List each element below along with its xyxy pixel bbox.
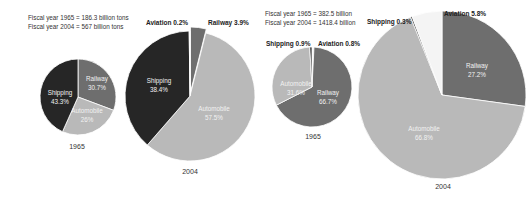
passenger-2004-shipping-label: Shipping 0.3% (367, 18, 411, 25)
passenger-1965-shipping-label: Shipping 0.9% (266, 40, 310, 47)
freight-2004-pie (125, 27, 255, 161)
freight-2004-year: 2004 (182, 168, 198, 175)
passenger-note-1965: Fiscal year 1965 = 382.5 billion (265, 9, 352, 18)
freight-note-1965: Fiscal year 1965 = 186.3 billion tons (28, 13, 129, 22)
passenger-2004-railway-label: Railway 27.2% (466, 61, 488, 79)
freight-1965-year: 1965 (69, 143, 85, 150)
freight-1965-railway-label: Railway 30.7% (86, 74, 108, 92)
passenger-1965-year: 1965 (305, 133, 321, 140)
passenger-1965-railway-label: Railway 66.7% (317, 88, 339, 106)
freight-2004-automobile-label: Automobile 57.5% (198, 104, 230, 122)
passenger-note-2004: Fiscal year 2004 = 1418.4 billion (265, 18, 356, 27)
passenger-2004-automobile-label: Automobile 66.8% (408, 124, 440, 142)
passenger-1965-aviation-label: Aviation 0.8% (318, 40, 360, 47)
passenger-2004-year: 2004 (435, 183, 451, 190)
passenger-1965-automobile-label: Automobile 31.6% (280, 79, 312, 97)
freight-1965-shipping-label: Shipping 43.3% (48, 88, 73, 106)
freight-2004-aviation-label: Aviation 0.2% (146, 19, 188, 26)
pie-slice-railway (442, 11, 526, 106)
freight-2004-shipping-label: Shipping 38.4% (147, 76, 172, 94)
freight-2004-railway-label: Railway 3.9% (208, 19, 249, 26)
freight-1965-automobile-label: Automobile 26% (71, 106, 103, 124)
passenger-2004-aviation-label: Aviation 5.8% (444, 10, 486, 17)
passenger-2004-pie (358, 11, 526, 179)
freight-note-2004: Fiscal year 2004 = 567 billion tons (28, 22, 123, 31)
